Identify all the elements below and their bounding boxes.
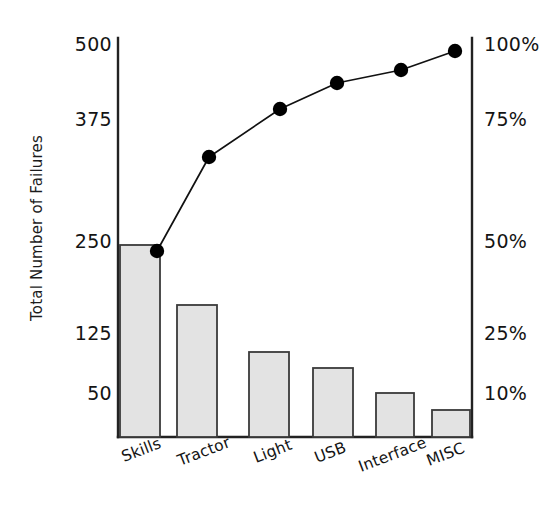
y-tick-left-2: 250 [75,230,112,252]
marker-tractor[interactable] [202,150,216,164]
bars-group [120,245,470,437]
bar-misc[interactable] [432,410,470,437]
y-tick-right-0: 100% [484,33,540,55]
y-tick-left-1: 375 [75,108,112,130]
marker-usb[interactable] [330,76,344,90]
marker-interface[interactable] [394,63,408,77]
bar-interface[interactable] [376,393,414,437]
bar-skills[interactable] [120,245,160,437]
y-tick-right-2: 50% [484,230,527,252]
cumulative-line [157,51,455,251]
y-tick-right-1: 75% [484,108,527,130]
marker-misc[interactable] [448,44,462,58]
y-tick-left-4: 50 [87,382,112,404]
y-tick-left-3: 125 [75,322,112,344]
pareto-chart: Total Number of Failures 50037525012550 … [0,0,550,514]
bar-usb[interactable] [313,368,353,437]
y-tick-left-0: 500 [75,33,112,55]
y-tick-right-4: 10% [484,382,527,404]
marker-skills[interactable] [150,244,164,258]
marker-light[interactable] [273,102,287,116]
bar-light[interactable] [249,352,289,437]
bar-tractor[interactable] [177,305,217,437]
y-tick-right-3: 25% [484,322,527,344]
chart-canvas [0,0,550,514]
cumulative-markers-group [150,44,462,258]
